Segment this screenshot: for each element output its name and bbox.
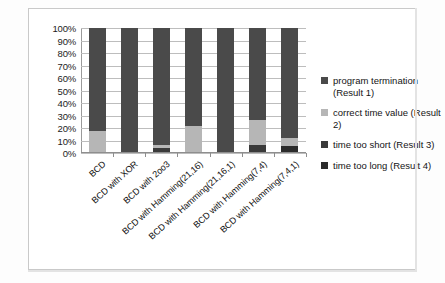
legend-item: time too long (Result 4) bbox=[321, 160, 441, 172]
legend-swatch-4 bbox=[321, 162, 328, 169]
legend-label: time too short (Result 3) bbox=[333, 139, 434, 150]
y-tick-label: 70% bbox=[58, 60, 76, 71]
bar-segment bbox=[185, 28, 202, 126]
legend-swatch-3 bbox=[321, 141, 328, 148]
y-tick-label: 100% bbox=[53, 23, 77, 34]
bar-segment bbox=[89, 131, 106, 152]
chart-figure: 100%90%80%70%60%50%40%30%20%10%0% BCDBCD… bbox=[0, 0, 445, 283]
legend-item: correct time value (Result 2) bbox=[321, 107, 441, 130]
legend-label: program termination (Result 1) bbox=[333, 75, 418, 98]
chart-frame: 100%90%80%70%60%50%40%30%20%10%0% BCDBCD… bbox=[28, 8, 416, 270]
y-tick-label: 80% bbox=[58, 48, 76, 59]
legend-label: correct time value (Result 2) bbox=[333, 107, 441, 130]
y-tick-label: 10% bbox=[58, 135, 76, 146]
legend-swatch-2 bbox=[321, 109, 328, 116]
bar-column bbox=[89, 28, 106, 152]
bar-segment bbox=[89, 28, 106, 131]
bar-segment bbox=[121, 28, 138, 152]
legend-swatch-1 bbox=[321, 77, 328, 84]
y-tick-label: 60% bbox=[58, 73, 76, 84]
y-tick-label: 90% bbox=[58, 35, 76, 46]
y-tick-label: 0% bbox=[63, 148, 76, 159]
bar-column bbox=[121, 28, 138, 152]
y-tick-label: 20% bbox=[58, 123, 76, 134]
legend-item: time too short (Result 3) bbox=[321, 139, 441, 151]
x-category-label-text: BCD bbox=[87, 159, 108, 179]
y-tick-label: 40% bbox=[58, 98, 76, 109]
y-tick-label: 50% bbox=[58, 85, 76, 96]
y-tick-label: 30% bbox=[58, 110, 76, 121]
legend-label: time too long (Result 4) bbox=[333, 160, 431, 171]
legend-item: program termination (Result 1) bbox=[321, 75, 441, 98]
chart-legend: program termination (Result 1)correct ti… bbox=[321, 75, 441, 180]
